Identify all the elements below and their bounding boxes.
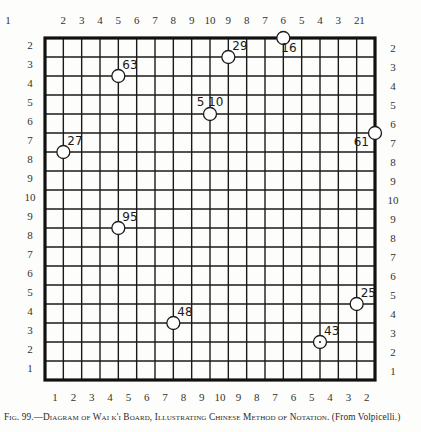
bottom-label: 6 [144,391,150,403]
top-label: 5 [299,14,305,26]
bottom-label: 1 [52,391,58,403]
bottom-label: 3 [89,391,95,403]
bottom-label: 3 [346,391,352,403]
top-label: 4 [317,14,323,26]
stone-number: 5 10 [197,95,224,109]
stone [204,108,217,121]
caption-source: (From Volpicelli.) [332,412,401,422]
right-label: 9 [390,175,396,187]
left-label: 4 [27,305,33,317]
right-label: 2 [390,42,396,54]
top-label: 6 [134,14,140,26]
top-label: 2 [61,14,67,26]
right-label: 10 [388,194,399,206]
bottom-label: 2 [71,391,77,403]
left-label: 1 [27,362,33,374]
right-label: 3 [390,327,396,339]
top-label: 8 [171,14,177,26]
bottom-label: 8 [181,391,187,403]
caption-prefix: Fig. 99.— [4,412,43,422]
left-label: 2 [27,343,33,355]
stone-center-dot [319,341,321,343]
stone-number: 29 [232,39,247,53]
bottom-label: 6 [291,391,297,403]
right-label: 6 [390,118,396,130]
top-label: 3 [336,14,342,26]
figure: 1629635 10276195482543 12345678910987654… [0,0,421,432]
stone-number: 48 [177,305,192,319]
left-label: 5 [27,96,33,108]
left-label: 6 [27,267,33,279]
right-label: 7 [390,251,396,263]
left-label: 5 [27,286,33,298]
right-label: 4 [390,308,396,320]
bottom-label: 10 [215,391,226,403]
top-label: 10 [205,14,216,26]
left-label: 9 [27,172,33,184]
stone-number: 43 [324,324,339,338]
right-label: 4 [390,80,396,92]
top-label: 6 [281,14,287,26]
top-label: 5 [116,14,122,26]
bottom-label: 8 [254,391,260,403]
left-label: 9 [27,210,33,222]
bottom-label: 7 [162,391,168,403]
right-label: 5 [390,289,396,301]
top-label: 7 [152,14,158,26]
figure-caption: Fig. 99.—Diagram of Wai k'i Board, Illus… [4,412,400,422]
caption-main: Diagram of Wai k'i Board, Illustrating C… [43,412,329,422]
left-label: 2 [27,39,33,51]
stone-number: 16 [281,41,296,55]
bottom-label: 7 [272,391,278,403]
bottom-label: 5 [309,391,315,403]
left-label: 10 [25,191,36,203]
right-label: 8 [390,232,396,244]
stone-number: 95 [122,210,137,224]
right-label: 2 [390,346,396,358]
top-label: 3 [79,14,85,26]
stone-number: 61 [354,135,369,149]
right-label: 7 [390,137,396,149]
bottom-label: 4 [327,391,333,403]
bottom-label: 4 [107,391,113,403]
bottom-label: 5 [126,391,132,403]
top-label: 1 [359,14,365,26]
bottom-label: 9 [236,391,242,403]
top-label: 9 [189,14,195,26]
left-label: 8 [27,153,33,165]
left-label: 4 [27,77,33,89]
stone-number: 25 [361,286,376,300]
top-label: 7 [262,14,268,26]
left-label: 3 [27,58,33,70]
top-label: 8 [244,14,250,26]
bottom-label: 9 [199,391,205,403]
bottom-label: 2 [364,391,370,403]
right-label: 3 [390,61,396,73]
left-label: 3 [27,324,33,336]
right-label: 1 [390,365,396,377]
stone [369,127,382,140]
right-label: 9 [390,213,396,225]
right-label: 8 [390,156,396,168]
left-label: 6 [27,115,33,127]
top-label: 9 [226,14,232,26]
left-label: 7 [27,134,33,146]
left-label: 8 [27,229,33,241]
right-label: 5 [390,99,396,111]
stone-number: 63 [122,58,137,72]
top-label: 4 [97,14,103,26]
top-label: 1 [5,14,11,26]
stone-number: 27 [67,134,82,148]
left-label: 7 [27,248,33,260]
go-board: 1629635 10276195482543 [0,0,421,432]
right-label: 6 [390,270,396,282]
